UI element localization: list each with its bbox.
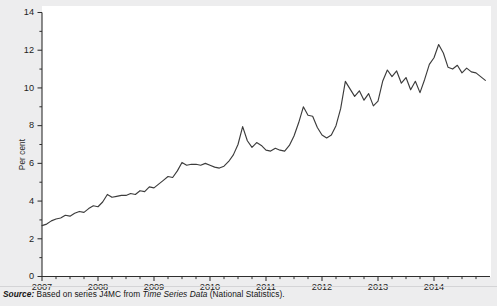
- source-label: Source:: [3, 289, 34, 299]
- source-text-before: Based on series J4MC from: [34, 289, 142, 299]
- series-line-j4mc: [42, 45, 485, 226]
- divider-rule: [0, 286, 497, 287]
- y-tick-label: 0: [12, 271, 34, 281]
- y-tick-label: 8: [12, 120, 34, 130]
- y-tick-label: 12: [12, 45, 34, 55]
- y-tick-label: 2: [12, 234, 34, 244]
- y-tick-label: 10: [12, 83, 34, 93]
- y-ticks-group: [38, 13, 43, 277]
- x-tick-label: 2014: [411, 282, 457, 293]
- chart-svg: [0, 0, 497, 306]
- x-ticks-group: [42, 277, 476, 282]
- x-tick-label: 2013: [355, 282, 401, 293]
- source-text-after: (National Statistics).: [207, 289, 284, 299]
- y-tick-label: 6: [12, 158, 34, 168]
- chart-figure: Per cent 02468101214 2007200820092010201…: [0, 0, 497, 306]
- y-tick-label: 14: [12, 7, 34, 17]
- axes-group: [42, 13, 490, 277]
- source-note: Source: Based on series J4MC from Time S…: [3, 289, 285, 299]
- y-tick-label: 4: [12, 196, 34, 206]
- x-tick-label: 2012: [299, 282, 345, 293]
- source-publication-title: Time Series Data: [143, 289, 208, 299]
- data-series-group: [42, 45, 485, 226]
